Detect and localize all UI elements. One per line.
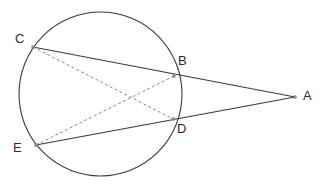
vertex-label-e: E — [13, 141, 22, 154]
vertex-label-b: B — [178, 54, 187, 67]
vertex-marker-e — [34, 143, 37, 146]
vertex-marker-d — [171, 117, 174, 120]
vertex-marker-b — [172, 74, 175, 77]
geometry-canvas — [0, 0, 330, 190]
vertex-label-c: C — [15, 32, 24, 45]
circle-shape — [19, 12, 182, 176]
vertex-marker-c — [31, 45, 34, 48]
vertex-label-d: D — [177, 122, 186, 135]
vertex-label-a: A — [303, 89, 312, 102]
secant-line-c-b-a — [33, 47, 295, 97]
secant-line-e-d-a — [36, 97, 295, 145]
chord-c-d — [33, 47, 173, 119]
chord-e-b — [36, 76, 174, 145]
geometry-figure: C B A D E — [0, 0, 330, 190]
vertex-marker-a — [293, 95, 296, 98]
